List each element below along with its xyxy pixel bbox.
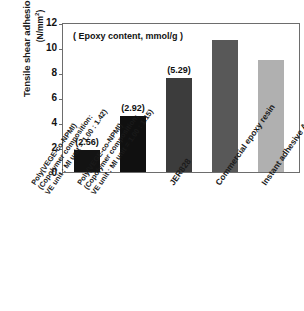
x-label-instant-adhesive-aron-alpha: Instant adhesive Aron Alpha® [260,85,304,188]
chart-figure: Tensile shear adhesion strength (N/mm2) … [0,0,304,311]
x-label-3-line-1: JER828 [168,157,193,187]
x-axis-tick-labels: Poly(VEGE-co-NPMI) (Copolymer compositio… [0,0,304,311]
x-label-5-line-1: Instant adhesive Aron Alpha® [260,85,304,188]
x-label-jer828: JER828 [168,157,193,187]
